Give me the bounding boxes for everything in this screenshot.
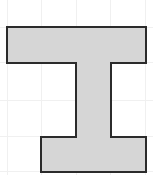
figure-canvas (0, 0, 153, 175)
i-beam-shape-layer (0, 0, 153, 175)
i-beam-polygon (7, 27, 146, 172)
